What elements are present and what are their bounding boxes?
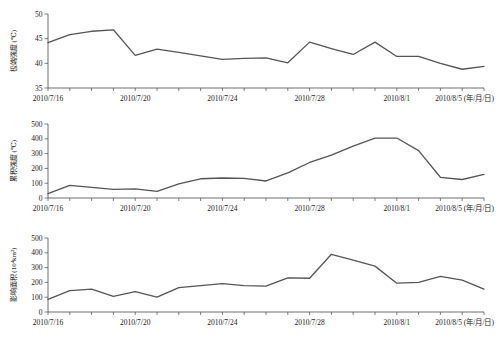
y-axis-title: 累积强度 (℃) (9, 139, 18, 182)
y-tick-label: 200 (31, 164, 43, 173)
x-tick-label: 2010/8/5 (年/月/日) (435, 203, 494, 213)
x-tick-label: 2010/7/16 (33, 94, 64, 103)
y-axis-title: 极端强度 (℃) (9, 29, 18, 72)
x-tick-label: 2010/7/16 (33, 318, 64, 327)
y-tick-label: 400 (31, 134, 43, 143)
x-tick-label: 2010/7/28 (294, 318, 325, 327)
chart-panel-top: 354045502010/7/162010/7/202010/7/242010/… (0, 0, 496, 114)
data-series-line (48, 30, 484, 69)
y-tick-label: 100 (31, 293, 43, 302)
x-tick-label: 2010/8/5 (年/月/日) (435, 93, 494, 103)
x-tick-label: 2010/7/20 (120, 318, 151, 327)
x-tick-label: 2010/7/24 (207, 204, 238, 213)
data-series-line (48, 138, 484, 194)
x-tick-label: 2010/7/28 (294, 94, 325, 103)
chart-canvas-top: 354045502010/7/162010/7/202010/7/242010/… (0, 0, 496, 114)
y-tick-label: 40 (35, 59, 43, 68)
chart-canvas-middle: 01002003004005002010/7/162010/7/202010/7… (0, 114, 496, 228)
x-tick-label: 2010/8/5 (年/月/日) (435, 317, 494, 327)
y-tick-label: 300 (31, 149, 43, 158)
x-tick-label: 2010/8/1 (383, 94, 410, 103)
y-tick-label: 500 (31, 120, 43, 129)
y-tick-label: 50 (35, 10, 43, 19)
y-tick-label: 100 (31, 179, 43, 188)
y-axis-title: 影响面积 (10⁴km²) (9, 247, 18, 303)
chart-canvas-bottom: 01002003004005002010/7/162010/7/202010/7… (0, 228, 496, 342)
y-tick-label: 0 (39, 308, 43, 317)
y-tick-label: 45 (35, 34, 43, 43)
x-tick-label: 2010/7/20 (120, 204, 151, 213)
y-tick-label: 500 (31, 234, 43, 243)
x-tick-label: 2010/8/1 (383, 204, 410, 213)
y-tick-label: 35 (35, 84, 43, 93)
x-tick-label: 2010/7/20 (120, 94, 151, 103)
x-tick-label: 2010/7/24 (207, 94, 238, 103)
x-tick-label: 2010/7/16 (33, 204, 64, 213)
y-tick-label: 200 (31, 278, 43, 287)
chart-panel-middle: 01002003004005002010/7/162010/7/202010/7… (0, 114, 496, 228)
chart-panel-bottom: 01002003004005002010/7/162010/7/202010/7… (0, 228, 496, 342)
y-tick-label: 300 (31, 263, 43, 272)
multi-panel-line-chart-figure: 354045502010/7/162010/7/202010/7/242010/… (0, 0, 496, 342)
x-tick-label: 2010/7/28 (294, 204, 325, 213)
y-tick-label: 400 (31, 248, 43, 257)
data-series-line (48, 254, 484, 299)
y-tick-label: 0 (39, 194, 43, 203)
x-tick-label: 2010/7/24 (207, 318, 238, 327)
x-tick-label: 2010/8/1 (383, 318, 410, 327)
